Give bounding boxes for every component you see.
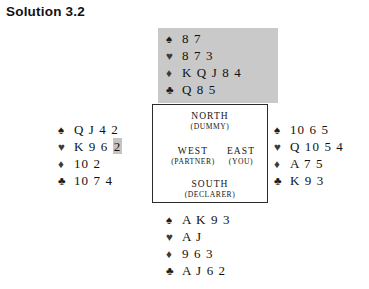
north-clubs-row: ♣ Q 8 5 [166,81,242,98]
south-clubs: A J 6 2 [179,262,226,279]
north-hand: ♠ 8 7 ♥ 8 7 3 ♦ K Q J 8 4 ♣ Q 8 5 [166,30,242,98]
north-spades: 8 7 [179,30,202,47]
compass-north-label: NORTH [153,111,267,122]
diamond-icon: ♦ [58,156,71,173]
west-hearts-row: ♥ K 9 6 2 [58,138,122,155]
compass-east-label: EAST [218,146,264,157]
compass-box: NORTH (DUMMY) WEST (PARTNER) EAST (YOU) … [152,104,268,203]
heart-icon: ♥ [166,48,179,65]
heart-icon: ♥ [58,139,71,156]
diamond-icon: ♦ [166,246,179,263]
west-spades-row: ♠ Q J 4 2 [58,121,122,138]
north-spades-row: ♠ 8 7 [166,30,242,47]
east-clubs: K 9 3 [287,172,324,189]
east-hearts-row: ♥ Q 10 5 4 [274,138,344,155]
east-spades: 10 6 5 [287,121,329,138]
heart-icon: ♥ [166,229,179,246]
south-clubs-row: ♣ A J 6 2 [166,262,231,279]
west-clubs-row: ♣ 10 7 4 [58,172,122,189]
north-clubs: Q 8 5 [179,81,216,98]
page-title: Solution 3.2 [6,4,85,19]
east-spades-row: ♠ 10 6 5 [274,121,344,138]
bridge-hand-diagram: Solution 3.2 ♠ 8 7 ♥ 8 7 3 ♦ K Q J 8 4 ♣… [0,0,369,289]
club-icon: ♣ [166,263,179,280]
north-hearts: 8 7 3 [179,47,214,64]
diamond-icon: ♦ [274,156,287,173]
compass-east-role: (YOU) [218,157,264,167]
diamond-icon: ♦ [166,65,179,82]
east-diamonds: A 7 5 [287,155,324,172]
west-hearts: K 9 6 2 [71,138,122,155]
west-hand: ♠ Q J 4 2 ♥ K 9 6 2 ♦ 10 2 ♣ 10 7 4 [58,121,122,189]
spade-icon: ♠ [166,212,179,229]
spade-icon: ♠ [58,122,71,139]
north-diamonds: K Q J 8 4 [179,64,242,81]
south-hearts: A J [179,228,202,245]
east-hearts: Q 10 5 4 [287,138,344,155]
west-clubs: 10 7 4 [71,172,113,189]
south-spades: A K 9 3 [179,211,231,228]
compass-east: EAST (YOU) [218,146,264,167]
club-icon: ♣ [58,173,71,190]
west-diamonds-row: ♦ 10 2 [58,155,122,172]
club-icon: ♣ [274,173,287,190]
compass-north-role: (DUMMY) [153,122,267,132]
spade-icon: ♠ [274,122,287,139]
east-diamonds-row: ♦ A 7 5 [274,155,344,172]
north-diamonds-row: ♦ K Q J 8 4 [166,64,242,81]
north-hearts-row: ♥ 8 7 3 [166,47,242,64]
compass-south-label: SOUTH [153,179,267,190]
west-diamonds: 10 2 [71,155,101,172]
spade-icon: ♠ [166,31,179,48]
compass-north: NORTH (DUMMY) [153,111,267,132]
east-clubs-row: ♣ K 9 3 [274,172,344,189]
south-spades-row: ♠ A K 9 3 [166,211,231,228]
south-diamonds-row: ♦ 9 6 3 [166,245,231,262]
south-hand: ♠ A K 9 3 ♥ A J ♦ 9 6 3 ♣ A J 6 2 [166,211,231,279]
east-hand: ♠ 10 6 5 ♥ Q 10 5 4 ♦ A 7 5 ♣ K 9 3 [274,121,344,189]
compass-south-role: (DECLARER) [153,190,267,200]
compass-south: SOUTH (DECLARER) [153,179,267,200]
south-hearts-row: ♥ A J [166,228,231,245]
south-diamonds: 9 6 3 [179,245,214,262]
west-spades: Q J 4 2 [71,121,119,138]
west-hearts-plain: K 9 6 [74,139,113,154]
club-icon: ♣ [166,82,179,99]
heart-icon: ♥ [274,139,287,156]
west-hearts-highlighted-card: 2 [113,138,123,154]
